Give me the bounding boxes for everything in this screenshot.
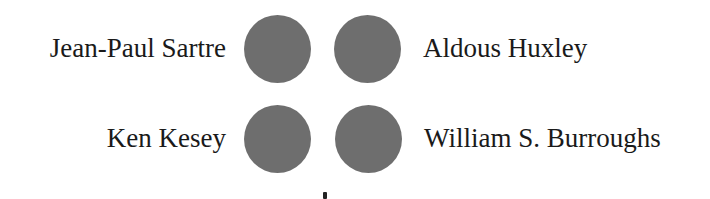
dot-row-1-left (244, 15, 311, 83)
cropped-glyph-fragment (323, 192, 327, 199)
label-right-row-2: William S. Burroughs (424, 125, 661, 152)
label-left-row-1: Jean-Paul Sartre (50, 35, 226, 62)
dot-row-1-right (334, 15, 401, 83)
label-right-row-1: Aldous Huxley (423, 35, 587, 62)
label-left-row-2: Ken Kesey (107, 125, 226, 152)
dot-row-2-right (335, 105, 402, 173)
dot-row-2-left (244, 105, 311, 173)
left-labels-column: Jean-Paul Sartre Ken Kesey (0, 0, 226, 199)
